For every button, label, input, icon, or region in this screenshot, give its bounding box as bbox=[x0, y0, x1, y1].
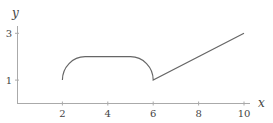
x-tick-label: 4 bbox=[105, 108, 111, 119]
x-tick-label: 6 bbox=[150, 108, 156, 119]
chart: 246810 13 x y bbox=[0, 0, 273, 123]
x-axis-label: x bbox=[258, 96, 265, 110]
y-tick-label: 1 bbox=[6, 75, 12, 86]
y-axis-label: y bbox=[11, 6, 19, 20]
x-tick-label: 2 bbox=[59, 108, 65, 119]
x-tick-label: 10 bbox=[238, 108, 251, 119]
x-ticks: 246810 bbox=[59, 102, 250, 120]
y-tick-label: 3 bbox=[6, 28, 12, 39]
y-ticks: 13 bbox=[6, 28, 19, 86]
axes bbox=[17, 26, 250, 104]
data-curve bbox=[62, 33, 244, 80]
x-tick-label: 8 bbox=[195, 108, 201, 119]
